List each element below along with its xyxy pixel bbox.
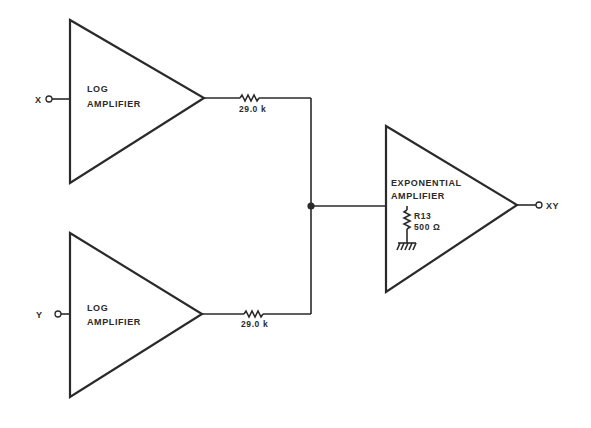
input-label-y: Y — [36, 310, 43, 320]
amplifier-label-line2: AMPLIFIER — [87, 99, 141, 109]
amplifier-label-line1: EXPONENTIAL — [391, 178, 462, 188]
resistor-zigzag-icon — [240, 95, 259, 101]
amplifier-label-line2: AMPLIFIER — [391, 191, 445, 201]
amplifier-triangle — [70, 233, 202, 397]
input-label-x: X — [35, 95, 42, 105]
resistor-name: R13 — [414, 211, 431, 221]
multiplier-circuit-diagram: LOG AMPLIFIER X 29.0 k LOG AMPLIFIER Y 2… — [0, 0, 591, 428]
input-terminal-y: Y — [36, 310, 70, 320]
resistor-value: 29.0 k — [241, 319, 268, 329]
log-amplifier-y: LOG AMPLIFIER — [70, 233, 202, 397]
exponential-amplifier: EXPONENTIAL AMPLIFIER — [386, 126, 517, 292]
resistor-value: 29.0 k — [239, 104, 266, 114]
terminal-circle-icon — [536, 202, 542, 208]
amplifier-label-line1: LOG — [87, 84, 108, 94]
terminal-circle-icon — [46, 96, 52, 102]
resistor-top: 29.0 k — [204, 95, 311, 114]
output-terminal-xy: XY — [517, 201, 559, 211]
resistor-zigzag-icon — [244, 311, 263, 317]
input-terminal-x: X — [35, 95, 70, 105]
amplifier-triangle — [386, 126, 517, 292]
output-label-xy: XY — [546, 201, 559, 211]
resistor-value: 500 Ω — [414, 222, 440, 232]
resistor-bottom: 29.0 k — [202, 311, 311, 329]
amplifier-label-line2: AMPLIFIER — [87, 317, 141, 327]
terminal-circle-icon — [55, 311, 61, 317]
amplifier-label-line1: LOG — [87, 303, 108, 313]
log-amplifier-x: LOG AMPLIFIER — [70, 20, 204, 183]
